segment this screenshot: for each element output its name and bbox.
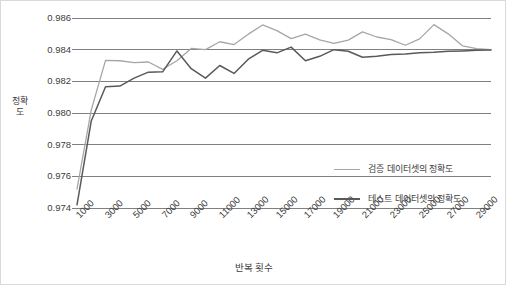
legend-swatch-line-icon	[334, 169, 360, 170]
accuracy-line-chart: 정확도 0.9860.9840.9820.9800.9780.9760.974 …	[0, 0, 506, 285]
legend-swatch-line-icon	[334, 198, 360, 200]
x-tick-label: 9000	[188, 198, 210, 220]
x-tick-label: 15000	[274, 194, 300, 220]
x-tick-label: 3000	[103, 198, 125, 220]
legend-item[interactable]: 테스트 데이터셋의 정확도	[334, 191, 499, 207]
x-tick-label: 7000	[160, 198, 182, 220]
legend-label: 검증 데이터셋의 정확도	[368, 164, 453, 175]
legend-item[interactable]: 검증 데이터셋의 정확도	[334, 161, 499, 177]
x-tick-label: 1000	[74, 198, 96, 220]
legend-label: 테스트 데이터셋의 정확도	[368, 194, 461, 205]
x-tick-label: 5000	[131, 198, 153, 220]
x-tick-label: 11000	[217, 195, 242, 220]
x-tick-label: 13000	[245, 194, 271, 220]
x-axis-title: 반복 횟수	[1, 262, 506, 273]
x-tick-label: 17000	[302, 194, 328, 220]
chart-legend: 검증 데이터셋의 정확도테스트 데이터셋의 정확도	[334, 161, 499, 221]
x-axis-tick-labels: 1000300050007000900011000130001500017000…	[1, 1, 506, 285]
